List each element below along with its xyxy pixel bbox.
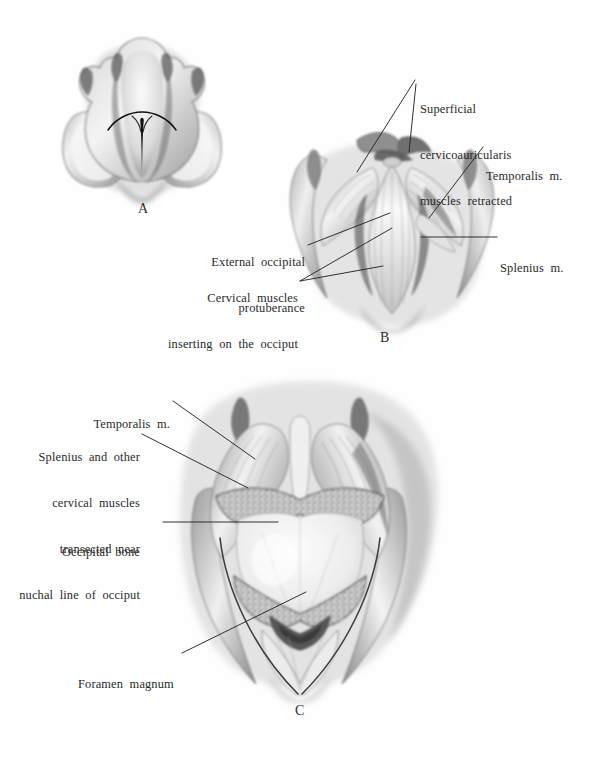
label-line: cervical muscles [10, 496, 140, 511]
label-line: inserting on the occiput [135, 337, 298, 352]
label-line: Superficial [420, 102, 588, 117]
label-temporalis-m-panel-b: Temporalis m. [486, 138, 586, 215]
label-occipital-bone: Occipital bone [62, 514, 182, 591]
label-foramen-magnum: Foramen magnum [78, 646, 208, 723]
label-line: Splenius and other [10, 450, 140, 465]
label-line: Temporalis m. [486, 169, 586, 184]
panel-letter-a: A [138, 201, 148, 217]
label-line: Cervical muscles [135, 291, 298, 306]
panel-letter-c: C [295, 703, 304, 719]
panel-letter-b: B [380, 330, 389, 346]
label-line: Foramen magnum [78, 677, 208, 692]
anatomy-plate: A [0, 0, 592, 763]
label-cervical-muscles-inserting: Cervical muscles inserting on the occipu… [135, 260, 298, 383]
panel-a-illustration [52, 34, 242, 206]
label-splenius-m-panel-b: Splenius m. [500, 230, 590, 307]
label-line: Splenius m. [500, 261, 590, 276]
label-line: Occipital bone [62, 545, 182, 560]
